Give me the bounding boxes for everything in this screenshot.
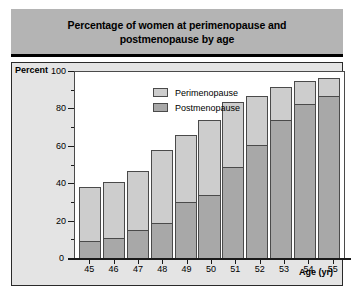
x-axis-tick-label: 50 — [206, 264, 216, 274]
bar-segment-postmenopause — [222, 167, 244, 258]
x-axis-tick-label: 45 — [84, 264, 94, 274]
bar-segment-perimenopause — [103, 182, 125, 238]
bar-segment-postmenopause — [246, 145, 268, 258]
legend: PerimenopausePostmenopause — [153, 86, 273, 116]
bar-column — [127, 72, 149, 258]
bar-column — [318, 72, 340, 258]
legend-label: Perimenopause — [175, 88, 238, 98]
x-axis-title: Age (yr) — [299, 267, 333, 277]
bar-segment-perimenopause — [318, 78, 340, 97]
legend-item: Postmenopause — [153, 101, 273, 114]
bar-column — [294, 72, 316, 258]
bar-segment-postmenopause — [318, 96, 340, 258]
bar-segment-perimenopause — [198, 120, 220, 194]
bar-segment-postmenopause — [175, 202, 197, 258]
chart-title-line2: postmenopause by age — [120, 33, 235, 45]
bar-segment-perimenopause — [270, 87, 292, 120]
y-axis-tick-label: 20 — [56, 216, 66, 226]
x-axis-tick-label: 52 — [255, 264, 265, 274]
bar-segment-perimenopause — [127, 171, 149, 231]
figure: Percentage of women at perimenopause and… — [0, 0, 354, 299]
legend-swatch — [153, 103, 168, 112]
y-axis: Percent 20406080100 — [12, 71, 74, 258]
bar-segment-postmenopause — [79, 241, 101, 258]
bar-segment-perimenopause — [79, 187, 101, 241]
legend-label: Postmenopause — [175, 103, 240, 113]
bar-column — [79, 72, 101, 258]
bar-segment-perimenopause — [294, 81, 316, 103]
bar-segment-postmenopause — [103, 238, 125, 258]
bar-segment-postmenopause — [151, 223, 173, 258]
bar-segment-postmenopause — [294, 104, 316, 258]
chart-title: Percentage of women at perimenopause and… — [68, 18, 287, 46]
chart-title-line1: Percentage of women at perimenopause and — [68, 19, 287, 31]
bar-column — [103, 72, 125, 258]
x-axis-tick-label: 49 — [182, 264, 192, 274]
bar-segment-postmenopause — [270, 120, 292, 258]
bar-segment-perimenopause — [175, 135, 197, 202]
x-axis-tick-label: 47 — [133, 264, 143, 274]
x-axis-tick-label: 48 — [157, 264, 167, 274]
x-axis-tick-label: 46 — [109, 264, 119, 274]
legend-item: Perimenopause — [153, 86, 273, 99]
bar-segment-postmenopause — [127, 230, 149, 258]
y-axis-tick-label: 100 — [51, 66, 66, 76]
y-axis-zero-label: 0 — [59, 253, 64, 263]
chart-title-banner: Percentage of women at perimenopause and… — [11, 9, 343, 57]
bar-segment-postmenopause — [198, 195, 220, 258]
bar-column — [270, 72, 292, 258]
y-axis-title: Percent — [15, 65, 48, 75]
y-axis-tick-label: 80 — [56, 103, 66, 113]
x-axis-tick-label: 53 — [279, 264, 289, 274]
y-axis-tick-label: 40 — [56, 178, 66, 188]
chart-panel: Percent 20406080100 PerimenopausePostmen… — [11, 62, 343, 286]
bar-segment-perimenopause — [151, 150, 173, 223]
legend-swatch — [153, 88, 168, 97]
x-axis-tick-label: 51 — [230, 264, 240, 274]
plot-frame: PerimenopausePostmenopause — [74, 71, 345, 258]
y-axis-tick-label: 60 — [56, 141, 66, 151]
